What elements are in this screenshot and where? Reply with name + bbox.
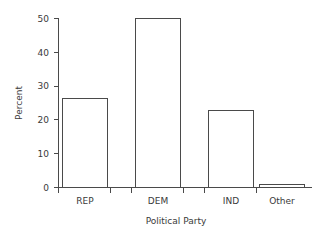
x-axis-title: Political Party bbox=[146, 216, 207, 226]
x-tick-label-other: Other bbox=[269, 196, 295, 206]
y-tick-label: 0 bbox=[43, 183, 49, 193]
y-tick-group bbox=[54, 19, 59, 188]
x-tick-group bbox=[59, 188, 257, 193]
bar-other bbox=[260, 185, 305, 188]
y-tick-label: 30 bbox=[38, 81, 50, 91]
bars-group bbox=[63, 19, 305, 188]
y-axis-title: Percent bbox=[14, 86, 24, 120]
y-tick-label: 40 bbox=[38, 48, 50, 58]
bar-ind bbox=[209, 111, 254, 188]
x-tick-label-rep: REP bbox=[76, 196, 94, 206]
x-tick-label-ind: IND bbox=[223, 196, 239, 206]
y-tick-label: 10 bbox=[38, 149, 50, 159]
y-tick-label: 50 bbox=[38, 14, 50, 24]
bar-rep bbox=[63, 99, 108, 188]
x-tick-label-dem: DEM bbox=[148, 196, 168, 206]
bar-dem bbox=[136, 19, 181, 188]
y-tick-label: 20 bbox=[38, 115, 50, 125]
chart-figure: 0 10 20 30 40 50 REP DEM IND bbox=[0, 0, 330, 238]
y-tick-labels: 0 10 20 30 40 50 bbox=[38, 14, 50, 193]
bar-chart-plot: 0 10 20 30 40 50 REP DEM IND bbox=[0, 0, 330, 238]
x-tick-labels: REP DEM IND Other bbox=[76, 196, 295, 206]
